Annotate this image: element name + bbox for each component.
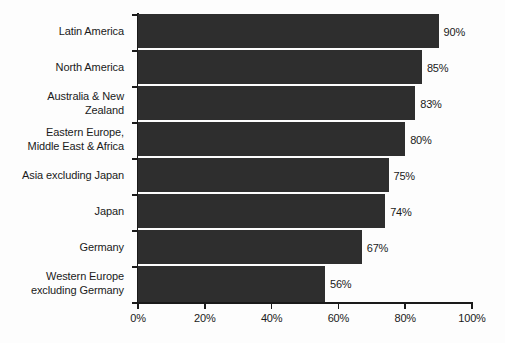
plot-area: 90%85%83%80%75%74%67%56% bbox=[138, 14, 472, 302]
bar-value-label: 74% bbox=[385, 206, 411, 218]
category-label: Western Europe excluding Germany bbox=[0, 266, 131, 302]
bar bbox=[138, 230, 362, 266]
bar-value-label: 85% bbox=[422, 62, 448, 74]
bar-row: 83% bbox=[138, 86, 472, 122]
bar-value-label: 80% bbox=[405, 134, 431, 146]
x-axis-tick bbox=[204, 303, 206, 309]
x-axis-tick-label: 100% bbox=[458, 312, 485, 324]
bar-row: 90% bbox=[138, 14, 472, 50]
bar bbox=[138, 266, 325, 302]
x-axis-tick bbox=[271, 303, 273, 309]
bar-row: 67% bbox=[138, 230, 472, 266]
category-label-text: Latin America bbox=[59, 25, 124, 39]
x-axis-tick bbox=[404, 303, 406, 309]
x-axis-tick bbox=[338, 303, 340, 309]
y-axis-tick bbox=[132, 266, 137, 268]
bar bbox=[138, 86, 415, 122]
category-label: Germany bbox=[0, 230, 131, 266]
y-axis-tick bbox=[132, 194, 137, 196]
category-label: Australia & New Zealand bbox=[0, 86, 131, 122]
x-axis-ticks: 0%20%40%60%80%100% bbox=[138, 303, 472, 309]
bar-row: 75% bbox=[138, 158, 472, 194]
bar-row: 80% bbox=[138, 122, 472, 158]
category-label: Japan bbox=[0, 194, 131, 230]
y-axis-tick bbox=[132, 122, 137, 124]
category-label-text: Asia excluding Japan bbox=[22, 169, 124, 183]
category-label: Latin America bbox=[0, 14, 131, 50]
bar bbox=[138, 158, 389, 194]
x-axis-tick-label: 0% bbox=[130, 312, 146, 324]
bar-row: 85% bbox=[138, 50, 472, 86]
category-label: Eastern Europe, Middle East & Africa bbox=[0, 122, 131, 158]
category-label-text: Australia & New Zealand bbox=[47, 90, 124, 118]
bar bbox=[138, 122, 405, 158]
category-label: North America bbox=[0, 50, 131, 86]
bar bbox=[138, 14, 439, 50]
bar bbox=[138, 194, 385, 230]
x-axis-tick-label: 80% bbox=[394, 312, 415, 324]
y-axis-category-labels: Latin America North America Australia & … bbox=[0, 14, 131, 302]
category-label-text: Western Europe excluding Germany bbox=[31, 270, 124, 298]
bar-rows: 90%85%83%80%75%74%67%56% bbox=[138, 14, 472, 302]
x-axis-tick bbox=[471, 303, 473, 309]
y-axis-tick bbox=[132, 14, 137, 16]
x-axis-tick-label: 60% bbox=[328, 312, 349, 324]
y-axis-tick bbox=[132, 86, 137, 88]
bar-value-label: 67% bbox=[362, 242, 388, 254]
x-axis-tick-label: 40% bbox=[261, 312, 282, 324]
bar-value-label: 83% bbox=[415, 98, 441, 110]
bar-value-label: 90% bbox=[439, 26, 465, 38]
category-label-text: Eastern Europe, Middle East & Africa bbox=[28, 126, 124, 154]
bar-chart: Latin America North America Australia & … bbox=[0, 0, 505, 343]
x-axis-tick-label: 20% bbox=[194, 312, 215, 324]
x-axis-tick bbox=[137, 303, 139, 309]
category-label: Asia excluding Japan bbox=[0, 158, 131, 194]
bar-row: 74% bbox=[138, 194, 472, 230]
bar bbox=[138, 50, 422, 86]
y-axis-tick bbox=[132, 158, 137, 160]
bar-value-label: 75% bbox=[389, 170, 415, 182]
bar-row: 56% bbox=[138, 266, 472, 302]
category-label-text: North America bbox=[56, 61, 124, 75]
bar-value-label: 56% bbox=[325, 278, 351, 290]
category-label-text: Germany bbox=[79, 241, 124, 255]
y-axis-tick bbox=[132, 230, 137, 232]
category-label-text: Japan bbox=[95, 205, 124, 219]
y-axis-tick bbox=[132, 50, 137, 52]
